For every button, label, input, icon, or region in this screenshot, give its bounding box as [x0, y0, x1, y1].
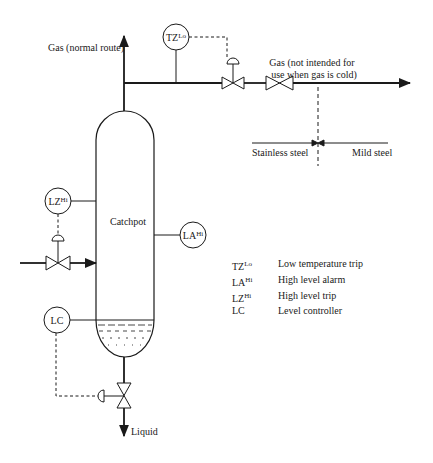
legend-row-lc: LC Level controller — [232, 305, 363, 318]
gas-normal-label: Gas (normal route) — [48, 42, 124, 54]
la-instrument-tag: LAHi — [180, 222, 206, 248]
tz-control-valve — [222, 58, 244, 89]
inlet-control-valve — [46, 235, 70, 270]
legend-description: Level controller — [278, 305, 342, 318]
tz-signal-line — [189, 37, 227, 58]
liquid-label: Liquid — [131, 426, 158, 438]
liquid-dashes — [98, 325, 152, 345]
legend-description: High level alarm — [278, 274, 345, 290]
lc-signal-line — [56, 333, 98, 396]
lz-instrument-tag: LZHi — [45, 188, 71, 214]
lc-instrument-tag: LC — [44, 307, 70, 333]
lc-control-valve — [98, 383, 131, 408]
gas-alt-label-line1: Gas (not intended for — [269, 57, 354, 69]
pid-drawing — [0, 0, 433, 463]
stainless-steel-label: Stainless steel — [252, 147, 308, 159]
legend-row-tz: TZLo Low temperature trip — [232, 258, 363, 274]
legend-description: Low temperature trip — [278, 258, 363, 274]
mild-steel-label: Mild steel — [352, 147, 392, 159]
legend-row-la: LAHi High level alarm — [232, 274, 363, 290]
legend-row-lz: LZHi High level trip — [232, 290, 363, 306]
vessel-label: Catchpot — [110, 216, 146, 228]
tz-instrument-tag: TZLo — [163, 24, 189, 50]
legend-description: High level trip — [278, 290, 336, 306]
instrument-legend: TZLo Low temperature trip LAHi High leve… — [232, 258, 363, 318]
gas-alt-label-line2: use when gas is cold) — [271, 69, 357, 81]
boundary-arrow-right — [318, 140, 324, 146]
